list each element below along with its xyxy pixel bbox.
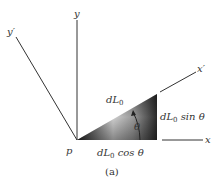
strain-element-diagram: y y′ x′ x p dL0 θ dL0 sin θ dL0 cos θ (a…: [0, 0, 216, 182]
y-axis-label: y: [73, 8, 80, 19]
y-prime-axis-line: [16, 37, 77, 140]
horizontal-side-label: dL0 cos θ: [97, 147, 144, 160]
angle-theta-label: θ: [134, 121, 140, 132]
x-prime-axis-line: [160, 72, 196, 92]
y-prime-axis-label: y′: [6, 26, 16, 37]
figure-caption: (a): [105, 166, 119, 177]
hypotenuse-label: dL0: [106, 94, 124, 107]
x-prime-axis-label: x′: [197, 63, 206, 74]
point-p-label: p: [66, 145, 73, 156]
vertical-side-label: dL0 sin θ: [160, 111, 205, 124]
x-axis-label: x: [205, 134, 211, 145]
